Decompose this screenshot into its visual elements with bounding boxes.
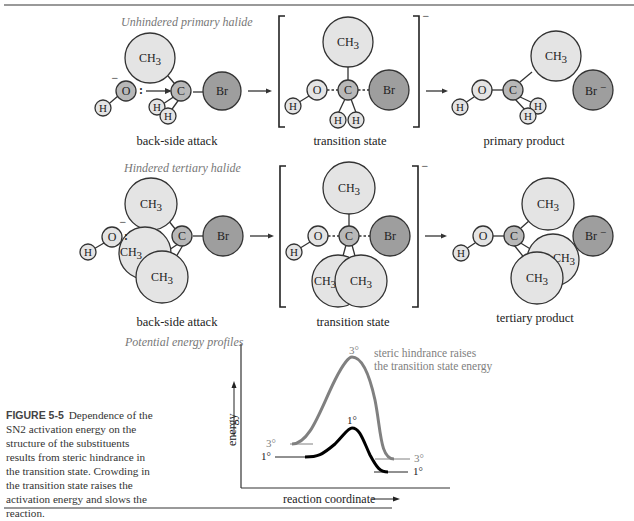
energy-chart: energy reaction coordinate 3° 1° 3° 1° 3… [225, 344, 493, 506]
row1-title: Unhindered primary halide [121, 15, 253, 29]
svg-text:H: H [164, 110, 172, 122]
svg-text:O: O [479, 229, 488, 243]
svg-text:−: − [112, 71, 119, 85]
svg-text:O: O [108, 230, 117, 244]
svg-text:H: H [334, 114, 342, 126]
svg-text::: : [124, 229, 128, 243]
y-axis-label: energy [225, 414, 239, 446]
svg-text:H: H [84, 246, 92, 258]
svg-text:−: − [120, 215, 127, 229]
svg-text:O: O [313, 83, 322, 97]
row1-product: CH3 H O C H H Br − [452, 31, 613, 124]
svg-text:C: C [344, 83, 352, 97]
svg-text:C: C [178, 229, 186, 243]
svg-text:H: H [289, 100, 297, 112]
energy-profile-title: Potential energy profiles [124, 335, 244, 349]
row2-reactant: CH3 CH3 CH3 O − : H C Br [80, 178, 243, 303]
row2-title: Hindered tertiary halide [123, 161, 242, 175]
figure-caption-text: Dependence of the SN2 activation energy … [6, 409, 153, 519]
svg-text:H: H [352, 114, 360, 126]
svg-text:3°: 3° [266, 437, 276, 449]
row1-reactant: CH3 O − : H C H H Br [95, 33, 241, 124]
svg-text:1°: 1° [347, 414, 357, 426]
svg-text:H: H [534, 100, 542, 112]
svg-text:Br: Br [384, 229, 396, 243]
svg-text:3°: 3° [414, 452, 424, 464]
svg-text:Br: Br [585, 229, 597, 243]
row1-caption-3: primary product [484, 134, 565, 148]
svg-text:Br: Br [217, 229, 229, 243]
svg-text:Br: Br [383, 83, 395, 97]
x-axis-label: reaction coordinate [283, 492, 375, 506]
row1-caption-1: back-side attack [137, 134, 219, 148]
annotation-line-2: the transition state energy [374, 360, 493, 373]
svg-text:O: O [478, 83, 487, 97]
figure-number: FIGURE 5-5 [6, 409, 64, 421]
svg-text:O: O [122, 84, 131, 98]
row2-transition-state: CH3 CH3 CH3 O H C Br [286, 162, 410, 307]
svg-text:H: H [153, 101, 161, 113]
svg-text:1°: 1° [413, 465, 423, 477]
row2-caption-2: transition state [316, 315, 390, 329]
svg-text:−: − [600, 226, 606, 238]
svg-text:H: H [524, 110, 532, 122]
primary-curve [305, 428, 388, 472]
row2-product: CH3 CH3 CH3 H O C Br − [453, 178, 613, 304]
svg-text:H: H [456, 101, 464, 113]
svg-text:H: H [99, 102, 107, 114]
svg-text:H: H [457, 247, 465, 259]
svg-text:H: H [290, 246, 298, 258]
svg-text:−: − [422, 159, 429, 173]
svg-text:1°: 1° [261, 450, 271, 462]
svg-text:Br: Br [216, 84, 228, 98]
row2-caption-1: back-side attack [137, 315, 219, 329]
svg-text:−: − [600, 81, 606, 93]
svg-text::: : [139, 83, 143, 97]
annotation-line-1: steric hindrance raises [374, 347, 477, 359]
svg-text:Br: Br [585, 84, 597, 98]
figure-caption: FIGURE 5-5Dependence of the SN2 activati… [6, 408, 156, 520]
svg-text:C: C [510, 229, 518, 243]
svg-text:C: C [177, 84, 185, 98]
svg-text:−: − [423, 9, 430, 23]
row1-caption-2: transition state [313, 134, 387, 148]
row1-transition-state: CH3 O H C H H Br [285, 17, 409, 128]
svg-text:C: C [509, 83, 517, 97]
svg-text:O: O [314, 229, 323, 243]
svg-text:3°: 3° [349, 344, 359, 356]
row2-caption-3: tertiary product [496, 311, 574, 325]
svg-text:C: C [345, 229, 353, 243]
